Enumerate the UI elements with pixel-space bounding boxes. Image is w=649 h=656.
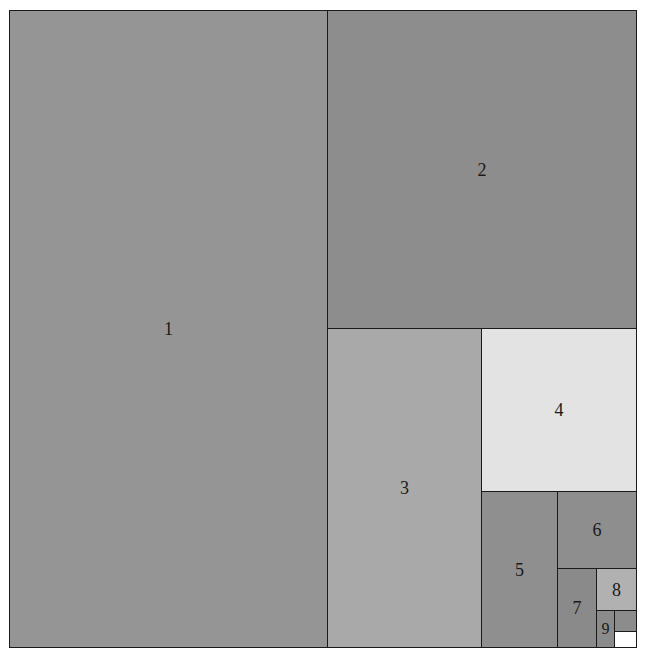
- cell-label: 1: [164, 320, 173, 338]
- cell-unlabeled-10: [614, 631, 637, 648]
- cell-label: 6: [593, 521, 602, 539]
- cell-7: 7: [557, 568, 597, 648]
- cell-label: 7: [573, 599, 582, 617]
- cell-8: 8: [596, 568, 637, 611]
- cell-label: 5: [515, 561, 524, 579]
- cell-unlabeled-9: [614, 610, 637, 632]
- cell-label: 9: [602, 621, 610, 637]
- cell-6: 6: [557, 491, 637, 569]
- cell-4: 4: [481, 328, 637, 492]
- cell-label: 8: [612, 581, 621, 599]
- cell-1: 1: [9, 10, 328, 648]
- cell-9: 9: [596, 610, 615, 648]
- cell-label: 4: [555, 401, 564, 419]
- subdivision-diagram: 123456789: [0, 0, 649, 656]
- cell-2: 2: [327, 10, 637, 329]
- cell-5: 5: [481, 491, 558, 648]
- cell-label: 2: [478, 161, 487, 179]
- cell-label: 3: [400, 479, 409, 497]
- cell-3: 3: [327, 328, 482, 648]
